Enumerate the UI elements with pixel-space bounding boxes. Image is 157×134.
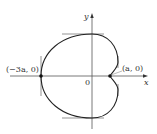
origin-label: 0 <box>85 79 90 87</box>
diagram: y x 0 (−3a, 0) (a, 0) <box>0 0 157 134</box>
point-label-a: (a, 0) <box>122 65 143 73</box>
y-axis-arrow-icon <box>90 13 93 18</box>
y-axis-label: y <box>84 13 89 21</box>
x-axis-label: x <box>144 79 149 87</box>
point-label-neg3a: (−3a, 0) <box>6 66 39 74</box>
point-neg3a <box>39 74 43 78</box>
